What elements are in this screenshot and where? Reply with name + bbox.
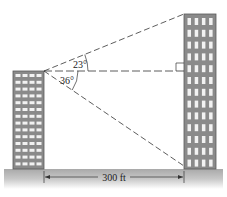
window [188, 160, 192, 167]
window [37, 81, 42, 84]
window [188, 124, 192, 131]
window [16, 101, 21, 104]
window [16, 88, 21, 91]
window [209, 65, 213, 72]
window [202, 65, 206, 72]
window [202, 101, 206, 108]
window [209, 53, 213, 60]
window [195, 136, 199, 143]
window [195, 30, 199, 37]
depression-angle-label: 36° [60, 75, 74, 86]
window [30, 88, 35, 91]
window [209, 148, 213, 155]
right-angle-marker [176, 63, 184, 71]
window [188, 136, 192, 143]
window [37, 88, 42, 91]
window [30, 101, 35, 104]
window [195, 42, 199, 49]
window [195, 124, 199, 131]
window [16, 94, 21, 97]
window [195, 89, 199, 96]
elevation-line [44, 14, 184, 71]
window [37, 94, 42, 97]
window [188, 53, 192, 60]
window [16, 115, 21, 118]
window [202, 18, 206, 25]
window [209, 124, 213, 131]
window [209, 77, 213, 84]
window [195, 148, 199, 155]
window [209, 101, 213, 108]
window [37, 122, 42, 125]
window [16, 162, 21, 165]
window [30, 135, 35, 138]
window [16, 156, 21, 159]
window [195, 53, 199, 60]
window [209, 112, 213, 119]
window [30, 74, 35, 77]
window [37, 142, 42, 145]
window [16, 122, 21, 125]
window [202, 53, 206, 60]
window [195, 160, 199, 167]
distance-label: 300 ft [102, 172, 126, 183]
window [37, 101, 42, 104]
window [209, 18, 213, 25]
window [188, 77, 192, 84]
window [23, 108, 28, 111]
window [30, 149, 35, 152]
window [23, 135, 28, 138]
window [23, 115, 28, 118]
window [23, 94, 28, 97]
window [30, 142, 35, 145]
window [23, 122, 28, 125]
window [23, 128, 28, 131]
right-building [184, 14, 216, 169]
window [16, 142, 21, 145]
elevation-angle-label: 23° [73, 59, 87, 70]
sight-lines [44, 14, 184, 166]
window [188, 30, 192, 37]
window [202, 124, 206, 131]
window [188, 89, 192, 96]
window [195, 77, 199, 84]
window [188, 101, 192, 108]
window [16, 135, 21, 138]
window [209, 160, 213, 167]
window [30, 115, 35, 118]
window [195, 101, 199, 108]
window [30, 128, 35, 131]
window [202, 148, 206, 155]
window [209, 89, 213, 96]
window [195, 65, 199, 72]
window [202, 89, 206, 96]
diagram-canvas: 23° 36° 300 ft [0, 0, 227, 197]
window [30, 156, 35, 159]
window [23, 142, 28, 145]
window [202, 30, 206, 37]
window [16, 128, 21, 131]
window [37, 149, 42, 152]
window [23, 88, 28, 91]
window [23, 101, 28, 104]
window [16, 81, 21, 84]
window [202, 42, 206, 49]
window [30, 81, 35, 84]
window [30, 94, 35, 97]
window [37, 156, 42, 159]
window [188, 112, 192, 119]
window [23, 74, 28, 77]
window [188, 42, 192, 49]
window [37, 162, 42, 165]
window [202, 136, 206, 143]
window [202, 77, 206, 84]
window [16, 149, 21, 152]
window [23, 81, 28, 84]
window [188, 65, 192, 72]
window [30, 162, 35, 165]
window [209, 136, 213, 143]
window [195, 112, 199, 119]
window [30, 122, 35, 125]
window [37, 108, 42, 111]
window [23, 149, 28, 152]
